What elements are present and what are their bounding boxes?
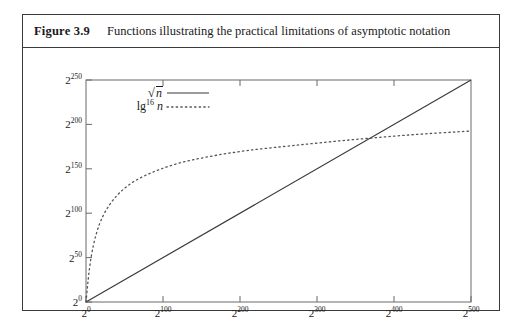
x-tick-exp-0: 0 xyxy=(87,305,91,314)
y-tick-exp-50: 50 xyxy=(75,250,83,259)
y-tick-exp-150: 150 xyxy=(71,161,82,170)
y-tick-label-0: 20 xyxy=(37,297,82,308)
y-tick-exp-100: 100 xyxy=(71,206,82,215)
x-tick-exp-100: 100 xyxy=(160,305,171,314)
figure-caption-text: Functions illustrating the practical lim… xyxy=(107,24,450,39)
x-axis-ticks xyxy=(86,296,471,302)
x-tick-exp-400: 400 xyxy=(391,305,402,314)
legend-lg-exponent: 16 xyxy=(146,98,154,107)
y-tick-exp-200: 200 xyxy=(71,117,82,126)
x-tick-label-300: 2300 xyxy=(292,308,342,319)
y-tick-label-150: 2150 xyxy=(37,164,82,175)
x-tick-exp-300: 300 xyxy=(314,305,325,314)
figure-number-label: Figure 3.9 xyxy=(34,24,90,39)
x-tick-label-500: 2500 xyxy=(446,308,496,319)
y-tick-label-100: 2100 xyxy=(37,208,82,219)
y-tick-label-200: 2200 xyxy=(37,119,82,130)
y-tick-label-50: 250 xyxy=(37,253,82,264)
x-tick-label-100: 2100 xyxy=(138,308,188,319)
series-sqrt-n-line xyxy=(86,80,471,302)
x-tick-label-400: 2400 xyxy=(369,308,419,319)
y-tick-exp-0: 0 xyxy=(78,294,82,303)
figure-caption-bar: Figure 3.9 Functions illustrating the pr… xyxy=(23,15,499,48)
x-tick-exp-200: 200 xyxy=(237,305,248,314)
x-tick-label-0: 20 xyxy=(61,308,111,319)
legend-label-lg16-n: lg16 n xyxy=(97,100,163,112)
legend-sqrt-arg: n xyxy=(156,86,163,99)
figure-container: Figure 3.9 Functions illustrating the pr… xyxy=(22,14,500,311)
plot-svg xyxy=(23,48,501,311)
x-tick-exp-500: 500 xyxy=(468,305,479,314)
x-axis-ticks-top xyxy=(163,80,394,86)
plot-area: 20 250 2100 2150 2200 2250 20 2100 2200 … xyxy=(23,48,499,311)
x-tick-label-200: 2200 xyxy=(215,308,265,319)
legend-lg-text: lg xyxy=(137,99,146,113)
y-tick-exp-250: 250 xyxy=(71,72,82,81)
legend-label-sqrt-n: √n xyxy=(107,86,163,99)
series-lg16-n-curve xyxy=(86,131,471,302)
y-tick-label-250: 2250 xyxy=(37,75,82,86)
legend-lg-arg: n xyxy=(157,99,163,113)
